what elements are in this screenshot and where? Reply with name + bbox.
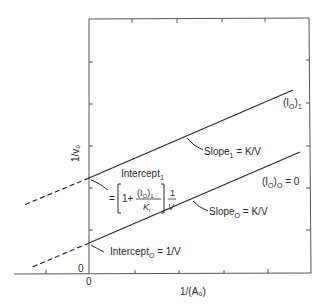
slope-1-label: Slope1 = K/V (204, 146, 261, 159)
svg-text:V: V (168, 202, 175, 212)
svg-text:Ki: Ki (143, 202, 151, 213)
svg-text:=: = (109, 193, 115, 204)
x-axis-label: 1/(A₀) (180, 286, 206, 297)
y-axis-label: 1/v₀ (70, 145, 81, 163)
axis-ticks (46, 18, 310, 274)
lineweaver-burk-diagram: 1/v₀ 1/(A₀) 0 0 (IO)1 (IO)O = 0 Slope1 =… (0, 0, 325, 308)
slope-0-label: SlopeO = K/V (209, 206, 268, 219)
svg-text:1+: 1+ (122, 193, 134, 204)
line-label-inhibitor-1: (IO)1 (283, 97, 302, 110)
intercept-1-label: Intercept1 (121, 168, 164, 181)
intercept-1-formula: = 1+ (IO)1 Ki 1 V (109, 184, 176, 213)
x-origin-label: 0 (86, 276, 92, 287)
svg-text:(IO)1: (IO)1 (137, 188, 154, 199)
svg-text:1: 1 (170, 188, 175, 198)
y-origin-label: 0 (78, 263, 84, 274)
line-label-inhibitor-0: (IO)O = 0 (262, 176, 300, 189)
intercept-0-label: InterceptO = 1/V (110, 246, 181, 259)
